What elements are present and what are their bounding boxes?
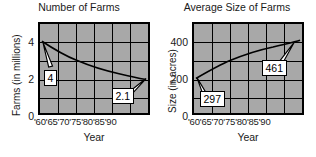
callout-value-2-1: 2.1 xyxy=(112,88,134,104)
two-panel-line-chart-figure: Number of Farms Farms (in millions) 0 2 … xyxy=(0,0,316,157)
x-tick-label: '85 xyxy=(93,116,105,127)
x-axis-label-left: Year xyxy=(38,131,150,143)
x-tick-label: '75 xyxy=(69,116,81,127)
x-tick-labels-right: '60'65'70'75'80'85'90 xyxy=(188,116,270,127)
y-tick-right-400: 400 xyxy=(160,36,188,48)
panel-average-size-of-farms: Average Size of Farms Size (in acres) 0 … xyxy=(158,0,316,157)
panel-number-of-farms: Number of Farms Farms (in millions) 0 2 … xyxy=(0,0,158,157)
callout-value-461: 461 xyxy=(262,60,287,76)
y-tick-right-200: 200 xyxy=(160,73,188,85)
callout-value-4: 4 xyxy=(44,70,57,86)
x-tick-label: '80 xyxy=(235,116,247,127)
callout-value-297: 297 xyxy=(200,91,225,107)
y-tick-left-2: 2 xyxy=(14,73,34,85)
y-tick-left-4: 4 xyxy=(14,36,34,48)
chart-title-left: Number of Farms xyxy=(0,1,158,13)
x-tick-label: '60 xyxy=(188,116,200,127)
x-tick-label: '90 xyxy=(105,116,117,127)
x-tick-labels-left: '60'65'70'75'80'85'90 xyxy=(34,116,116,127)
x-tick-label: '65 xyxy=(46,116,58,127)
x-tick-label: '85 xyxy=(247,116,259,127)
x-tick-label: '65 xyxy=(200,116,212,127)
x-tick-label: '70 xyxy=(212,116,224,127)
x-axis-label-right: Year xyxy=(192,131,304,143)
y-tick-left-0: 0 xyxy=(14,110,34,122)
x-tick-label: '75 xyxy=(223,116,235,127)
x-tick-label: '80 xyxy=(81,116,93,127)
x-tick-label: '60 xyxy=(34,116,46,127)
x-tick-label: '90 xyxy=(259,116,271,127)
chart-title-right: Average Size of Farms xyxy=(158,1,316,13)
y-tick-right-0: 0 xyxy=(160,110,188,122)
x-tick-label: '70 xyxy=(58,116,70,127)
